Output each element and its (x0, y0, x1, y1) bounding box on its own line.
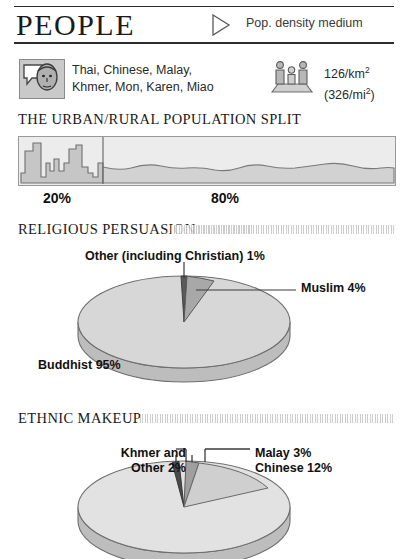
urban-percent-label: 20% (43, 190, 71, 206)
speech-face-icon (19, 59, 65, 99)
density-value: 126/km2 (326/mi2) (324, 62, 375, 104)
ethnic-leader-lines (0, 440, 406, 462)
urban-rural-chart (18, 136, 396, 186)
header-rule-top (14, 6, 394, 7)
ethnic-label-malay: Malay 3% (255, 446, 311, 461)
ethnic-label-khmer-line-2: Other 2% (66, 461, 186, 476)
section-heading-religion: RELIGIOUS PERSUASION (18, 221, 196, 238)
density-metric: 126/km2 (324, 62, 375, 83)
density-note: Pop. density medium (246, 16, 363, 30)
religion-label-other: Other (including Christian) 1% (85, 249, 265, 264)
ethnic-label-chinese: Chinese 12% (255, 461, 332, 476)
ethnic-pie-chart (0, 455, 406, 559)
page-header: PEOPLE Pop. density medium (14, 6, 394, 44)
languages-text: Thai, Chinese, Malay, Khmer, Mon, Karen,… (72, 62, 214, 96)
religion-label-buddhist: Buddhist 95% (38, 358, 121, 373)
rural-percent-label: 80% (211, 190, 239, 206)
density-imperial: (326/mi2) (324, 83, 375, 104)
ethnic-label-khmer-line-1: Khmer and (66, 446, 186, 461)
section-rule-religion (171, 225, 394, 234)
languages-line-1: Thai, Chinese, Malay, (72, 62, 214, 79)
three-people-icon (268, 58, 316, 100)
triangle-right-icon (210, 13, 232, 37)
section-heading-ethnic: ETHNIC MAKEUP (18, 410, 141, 427)
ethnic-label-khmer-other: Khmer and Other 2% (66, 446, 186, 476)
religion-label-muslim: Muslim 4% (301, 281, 366, 296)
header-rule-bottom (14, 42, 394, 44)
section-heading-urban-rural: THE URBAN/RURAL POPULATION SPLIT (18, 111, 301, 128)
skyline-hills-graphic (19, 137, 395, 185)
page-title: PEOPLE (16, 8, 135, 42)
section-rule-ethnic (140, 414, 394, 423)
languages-line-2: Khmer, Mon, Karen, Miao (72, 79, 214, 96)
